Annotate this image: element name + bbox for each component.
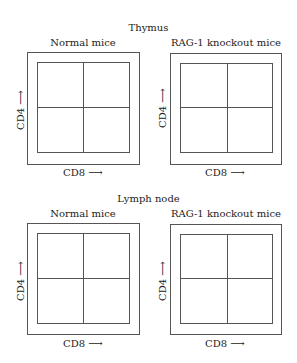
panel-title: Normal mice — [27, 208, 139, 219]
quadrant-divider-horizontal — [37, 107, 130, 108]
quadrant-divider-horizontal — [37, 278, 130, 279]
x-axis-label: CD8 ⟶ — [205, 167, 245, 178]
section-title-thymus: Thymus — [0, 22, 297, 33]
section-title-lymph-node: Lymph node — [0, 193, 297, 204]
panel-title: Normal mice — [27, 37, 139, 48]
y-axis-label: CD4 ⟶ — [15, 90, 26, 130]
x-axis-label: CD8 ⟶ — [63, 167, 103, 178]
x-axis-label: CD8 ⟶ — [63, 338, 103, 349]
quadrant-divider-vertical — [227, 234, 228, 324]
quadrant-divider-horizontal — [180, 107, 273, 108]
x-axis-label: CD8 ⟶ — [205, 338, 245, 349]
y-axis-label: CD4 ⟶ — [15, 261, 26, 301]
panel-title: RAG-1 knockout mice — [165, 37, 287, 48]
quadrant-divider-horizontal — [180, 278, 273, 279]
y-axis-label: CD4 ⟶ — [157, 261, 168, 301]
quadrant-divider-vertical — [227, 63, 228, 153]
panel-title: RAG-1 knockout mice — [165, 208, 287, 219]
y-axis-label: CD4 ⟶ — [157, 88, 168, 128]
